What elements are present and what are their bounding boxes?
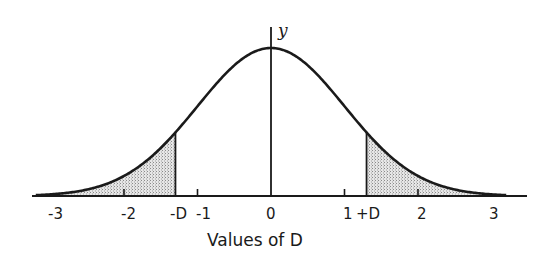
tick-label-minus-2: -2 bbox=[121, 205, 136, 223]
x-axis-title: Values of D bbox=[207, 230, 303, 250]
tick-label-plus-d: +D bbox=[356, 205, 380, 223]
normal-curve-figure: y -3 -2 -D -1 0 1 +D 2 3 Values of D bbox=[0, 0, 547, 261]
left-tail-shaded-region bbox=[36, 132, 176, 196]
right-tail-shaded-region bbox=[367, 132, 507, 196]
tick-label-1: 1 bbox=[343, 205, 353, 223]
tick-label-minus-1: -1 bbox=[196, 205, 211, 223]
tick-label-0: 0 bbox=[266, 205, 276, 223]
tick-label-3: 3 bbox=[489, 205, 499, 223]
tick-label-2: 2 bbox=[417, 205, 427, 223]
tick-label-minus-d: -D bbox=[170, 205, 187, 223]
tick-label-minus-3: -3 bbox=[48, 205, 63, 223]
y-axis-label: y bbox=[277, 20, 288, 40]
